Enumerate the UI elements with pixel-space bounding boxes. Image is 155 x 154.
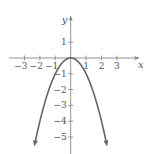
axes: xy <box>9 14 144 154</box>
y-axis-label: y <box>61 14 68 25</box>
y-tick-label: −4 <box>53 116 67 126</box>
y-tick-label: −2 <box>53 85 66 95</box>
y-tick-label: −5 <box>53 132 67 142</box>
x-tick-label: 3 <box>114 61 120 71</box>
x-tick-label: 1 <box>83 61 89 71</box>
y-tick-label: 1 <box>61 37 67 47</box>
tick-labels: −3−2−11231−1−2−3−4−5 <box>14 37 120 142</box>
x-tick-label: 2 <box>99 61 105 71</box>
y-tick-label: −1 <box>53 69 66 79</box>
y-tick-label: −3 <box>53 100 67 110</box>
parabola-plot: xy −3−2−11231−1−2−3−4−5 <box>0 0 155 154</box>
left-arrowhead-icon <box>33 140 38 146</box>
x-tick-label: −2 <box>30 61 43 71</box>
x-axis-label: x <box>138 59 144 70</box>
right-arrowhead-icon <box>104 140 109 146</box>
x-tick-label: −3 <box>14 61 28 71</box>
